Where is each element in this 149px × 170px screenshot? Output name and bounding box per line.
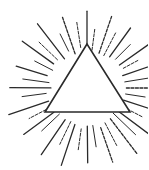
ray-line — [92, 28, 95, 50]
ray-line — [104, 33, 116, 56]
ray-line — [39, 42, 58, 60]
ray-line — [41, 120, 65, 155]
ray-line — [22, 93, 46, 96]
ray-line — [99, 17, 112, 54]
ray-line — [123, 64, 148, 76]
ray-line — [126, 94, 146, 97]
ray-line — [110, 28, 131, 57]
ray-line — [42, 114, 60, 131]
ray-line — [23, 79, 49, 83]
ray-line — [116, 45, 131, 60]
ray-line — [93, 126, 96, 147]
ray-line — [61, 125, 75, 166]
ray-line — [60, 34, 69, 51]
ray-line — [125, 78, 148, 82]
ray-line — [9, 101, 49, 115]
ray-line — [120, 44, 149, 65]
ray-line — [105, 123, 117, 146]
ray-line — [101, 128, 113, 163]
ray-line — [63, 17, 76, 54]
ray-line — [77, 22, 81, 47]
ray-line — [22, 41, 53, 64]
ray-line — [35, 61, 53, 70]
radiant-triangle-illustration — [0, 0, 148, 170]
ray-line — [78, 129, 81, 150]
ray-line — [16, 66, 47, 76]
triangle-shape — [45, 44, 130, 112]
